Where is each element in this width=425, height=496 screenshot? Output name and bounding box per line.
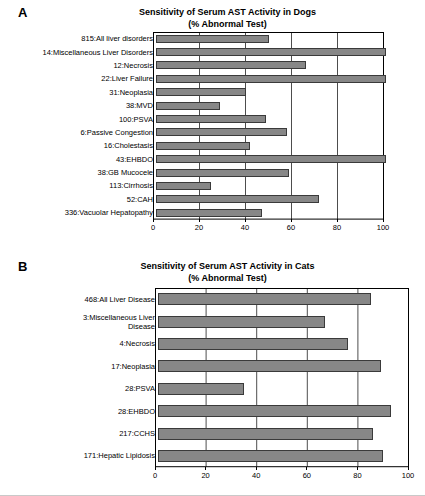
- bar-row-label: 12:Necrosis: [0, 61, 156, 70]
- bar-row: 100:PSVA: [0, 112, 425, 125]
- bar-row: 38:MVD: [0, 99, 425, 112]
- panel-b-bar-rows: 468:All Liver Disease3:Miscellaneous Liv…: [0, 288, 425, 467]
- bar: [156, 75, 386, 83]
- bar-row-label: 38:GB Mucocele: [0, 168, 156, 177]
- bar-track: [156, 153, 386, 166]
- panel-a-bar-rows: 815:All liver disorders14:Miscellaneous …: [0, 32, 425, 219]
- bar-track: [156, 206, 386, 219]
- x-axis-tick-label: 20: [195, 223, 203, 232]
- bar-track: [156, 99, 386, 112]
- bar-row: 3:Miscellaneous Liver Disease: [0, 310, 425, 332]
- bar-row-label: 171:Hepatic Lipidosis: [0, 451, 158, 460]
- panel-a-title-line1: Sensitivity of Serum AST Activity in Dog…: [139, 7, 316, 17]
- panel-b-title: Sensitivity of Serum AST Activity in Cat…: [40, 250, 415, 284]
- panel-b-plot: 468:All Liver Disease3:Miscellaneous Liv…: [0, 288, 425, 483]
- bar-track: [156, 193, 386, 206]
- bar: [156, 195, 319, 203]
- bar-row: 217:CCHS: [0, 422, 425, 444]
- bar: [156, 155, 386, 163]
- panel-b-x-axis: 020406080100: [0, 467, 425, 483]
- bar-track: [156, 86, 386, 99]
- x-axis-tick-label: 40: [241, 223, 249, 232]
- panel-a: A Sensitivity of Serum AST Activity in D…: [0, 0, 425, 250]
- bar: [156, 48, 386, 56]
- bar-track: [156, 72, 386, 85]
- bar-row: 12:Necrosis: [0, 59, 425, 72]
- x-axis-tick: [383, 219, 384, 222]
- bar-row: 22:Liver Failure: [0, 72, 425, 85]
- x-axis-tick-label: 60: [303, 471, 311, 480]
- bar-row-label: 6:Passive Congestion: [0, 128, 156, 137]
- bar-row-label: 38:MVD: [0, 101, 156, 110]
- bar-row: 815:All liver disorders: [0, 32, 425, 45]
- panel-a-title-line2: (% Abnormal Test): [40, 18, 415, 30]
- bar-row-label: 468:All Liver Disease: [0, 295, 158, 304]
- bar-track: [158, 445, 411, 467]
- bar-row: 38:GB Mucocele: [0, 166, 425, 179]
- bar: [158, 316, 325, 328]
- bar-track: [156, 166, 386, 179]
- panel-b-letter: B: [18, 259, 27, 274]
- x-axis-tick: [199, 219, 200, 222]
- x-axis-tick: [337, 219, 338, 222]
- bar-track: [158, 288, 411, 310]
- bar: [158, 338, 348, 350]
- bar-track: [156, 139, 386, 152]
- bar-row-label: 815:All liver disorders: [0, 34, 156, 43]
- bar: [158, 360, 381, 372]
- panel-a-plot: 815:All liver disorders14:Miscellaneous …: [0, 32, 425, 235]
- bar: [156, 169, 289, 177]
- bar-row: 6:Passive Congestion: [0, 126, 425, 139]
- bar-track: [158, 355, 411, 377]
- bar-track: [156, 45, 386, 58]
- panel-a-title: Sensitivity of Serum AST Activity in Dog…: [40, 0, 415, 30]
- bar-row: 28:PSVA: [0, 378, 425, 400]
- bar-row-label: 113:Cirrhosis: [0, 181, 156, 190]
- bar: [156, 209, 262, 217]
- bar-row-label: 31:Neoplasia: [0, 88, 156, 97]
- bar-row-label: 28:PSVA: [0, 384, 158, 393]
- bar: [156, 128, 287, 136]
- bar: [158, 428, 373, 440]
- bar-row-label: 16:Cholestasis: [0, 141, 156, 150]
- bar-track: [158, 310, 411, 332]
- bar-track: [158, 378, 411, 400]
- x-axis-tick: [205, 467, 206, 470]
- bar-row: 14:Miscellaneous Liver Disorders: [0, 45, 425, 58]
- x-axis-tick: [155, 467, 156, 470]
- x-axis-tick-label: 0: [151, 223, 155, 232]
- panel-a-letter: A: [18, 5, 27, 20]
- bar-row: 468:All Liver Disease: [0, 288, 425, 310]
- bar-row-label: 100:PSVA: [0, 115, 156, 124]
- bar: [156, 35, 269, 43]
- bar: [158, 293, 371, 305]
- bar-row: 16:Cholestasis: [0, 139, 425, 152]
- x-axis-tick: [291, 219, 292, 222]
- bar-row-label: 52:CAH: [0, 195, 156, 204]
- bar-track: [156, 112, 386, 125]
- x-axis-tick: [256, 467, 257, 470]
- bar-track: [156, 126, 386, 139]
- bar: [158, 405, 391, 417]
- bar-track: [156, 32, 386, 45]
- bar: [156, 115, 266, 123]
- x-axis-tick-label: 60: [287, 223, 295, 232]
- bar-row: 113:Cirrhosis: [0, 179, 425, 192]
- x-axis-tick-label: 100: [377, 223, 390, 232]
- x-axis-tick-label: 80: [353, 471, 361, 480]
- bar-row-label: 4:Necrosis: [0, 339, 158, 348]
- bar-row-label: 28:EHBDO: [0, 407, 158, 416]
- x-axis-tick-label: 0: [153, 471, 157, 480]
- x-axis-tick: [153, 219, 154, 222]
- bar: [156, 102, 220, 110]
- bar-track: [156, 59, 386, 72]
- bar-row: 171:Hepatic Lipidosis: [0, 445, 425, 467]
- bar-row: 4:Necrosis: [0, 333, 425, 355]
- x-axis-tick: [408, 467, 409, 470]
- x-axis-tick-label: 80: [333, 223, 341, 232]
- panel-a-x-axis: 020406080100: [0, 219, 425, 235]
- bar-row-label: 217:CCHS: [0, 429, 158, 438]
- bar-row: 31:Neoplasia: [0, 86, 425, 99]
- bar-row-label: 43:EHBDO: [0, 155, 156, 164]
- x-axis-tick: [245, 219, 246, 222]
